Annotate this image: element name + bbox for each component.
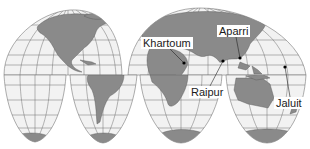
- jaluit-dot: [283, 65, 286, 68]
- raipur-dot: [221, 59, 224, 62]
- south-lobe-1: [0, 75, 70, 144]
- world-map: [0, 0, 310, 149]
- khartoum-dot: [182, 61, 185, 64]
- label-aparri: Aparri: [217, 25, 250, 37]
- label-jaluit: Jaluit: [274, 97, 304, 109]
- aparri-dot: [238, 56, 241, 59]
- south-lobe-4: [222, 74, 310, 144]
- north-west-lobe: [0, 10, 130, 75]
- label-khartoum: Khartoum: [141, 37, 193, 49]
- south-lobe-2: [66, 75, 140, 144]
- label-raipur: Raipur: [189, 86, 225, 98]
